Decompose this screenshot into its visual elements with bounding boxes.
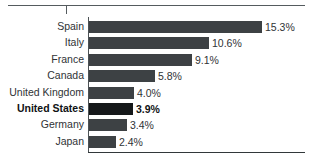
bar <box>89 87 134 99</box>
value-label: 2.4% <box>119 136 143 148</box>
value-label: 10.6% <box>212 37 242 49</box>
category-label: United States <box>0 102 88 115</box>
bar <box>89 37 209 49</box>
category-label: France <box>0 53 88 66</box>
table-row: Canada5.8% <box>0 69 313 85</box>
table-row: United Kingdom4.0% <box>0 86 313 102</box>
category-label: Spain <box>0 20 88 33</box>
table-row: Japan2.4% <box>0 135 313 151</box>
table-row: Germany3.4% <box>0 118 313 134</box>
value-label: 9.1% <box>195 54 219 66</box>
bar-track: 4.0% <box>89 87 313 99</box>
bar-track: 5.8% <box>89 70 313 82</box>
bar-chart-figure: Spain15.3%Italy10.6%France9.1%Canada5.8%… <box>0 0 313 165</box>
bar-track: 15.3% <box>89 21 313 33</box>
category-label: Germany <box>0 118 88 131</box>
value-label: 15.3% <box>265 21 295 33</box>
bar-track: 2.4% <box>89 136 313 148</box>
bar <box>89 136 116 148</box>
category-label: Japan <box>0 135 88 148</box>
value-label: 3.9% <box>136 103 160 115</box>
table-row: France9.1% <box>0 53 313 69</box>
bar-track: 10.6% <box>89 37 313 49</box>
bar-track: 3.4% <box>89 119 313 131</box>
top-rule-tick <box>66 5 67 14</box>
table-row: United States3.9% <box>0 102 313 118</box>
top-rule-divider <box>8 5 305 6</box>
category-label: United Kingdom <box>0 86 88 99</box>
bar-track: 9.1% <box>89 54 313 66</box>
bar <box>89 119 127 131</box>
table-row: Italy10.6% <box>0 36 313 52</box>
value-label: 5.8% <box>158 70 182 82</box>
x-axis-baseline <box>88 152 305 153</box>
bar <box>89 21 262 33</box>
category-label: Canada <box>0 69 88 82</box>
bar-rows: Spain15.3%Italy10.6%France9.1%Canada5.8%… <box>0 20 313 151</box>
bar <box>89 70 155 82</box>
value-label: 4.0% <box>137 87 161 99</box>
bar <box>89 103 133 115</box>
table-row: Spain15.3% <box>0 20 313 36</box>
bar-track: 3.9% <box>89 103 313 115</box>
bar <box>89 54 192 66</box>
value-label: 3.4% <box>130 119 154 131</box>
category-label: Italy <box>0 36 88 49</box>
